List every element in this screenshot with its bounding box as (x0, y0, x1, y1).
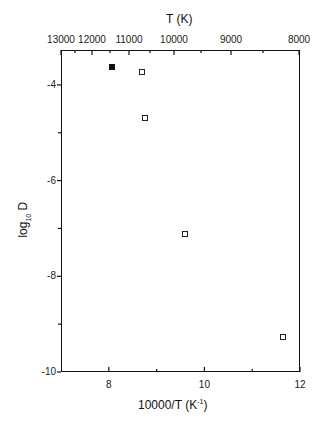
top-tick-label: 8000 (283, 35, 315, 45)
top-tick-label: 13000 (45, 35, 77, 45)
open-square-marker (142, 115, 148, 121)
y-axis-title-main: log (16, 222, 30, 238)
open-square-marker (139, 69, 145, 75)
y-axis-title-tail: D (16, 202, 30, 214)
top-tick-label: 11000 (113, 35, 145, 45)
top-axis-title: T (K) (166, 12, 192, 26)
y-tick-label: -8 (30, 271, 56, 281)
y-tick-label: -10 (30, 367, 56, 377)
x-axis-title-main: 10000/T (K (138, 398, 197, 412)
plot-area (61, 50, 300, 372)
x-tick-label: 12 (292, 380, 308, 390)
x-axis-title: 10000/T (K-1) (138, 398, 207, 412)
x-axis-title-tail: ) (203, 398, 207, 412)
top-tick-label: 9000 (215, 35, 247, 45)
filled-square-marker (109, 64, 115, 70)
open-square-marker (280, 334, 286, 340)
x-tick-label: 8 (101, 380, 117, 390)
y-axis-title: log10 D (16, 190, 31, 250)
y-axis-title-sub: 10 (25, 214, 32, 222)
y-tick-label: -4 (30, 80, 56, 90)
open-square-marker (182, 231, 188, 237)
y-tick-label: -6 (30, 176, 56, 186)
top-tick-label: 10000 (158, 35, 190, 45)
x-tick-label: 10 (196, 380, 212, 390)
top-tick-label: 12000 (76, 35, 108, 45)
